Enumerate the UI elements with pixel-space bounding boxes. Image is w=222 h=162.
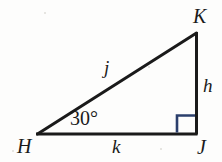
vertex-label-k: K — [193, 6, 206, 26]
side-label-j: j — [104, 58, 109, 77]
figure-canvas: H J K j h k 30° — [0, 0, 222, 162]
vertex-label-j: J — [197, 137, 206, 157]
vertex-label-h: H — [17, 136, 31, 156]
side-label-h: h — [203, 76, 213, 95]
side-j-line — [38, 33, 197, 134]
side-label-k: k — [112, 137, 120, 156]
right-angle-marker — [177, 116, 195, 133]
triangle-diagram — [0, 0, 222, 162]
angle-label-30-degrees: 30° — [70, 108, 98, 128]
